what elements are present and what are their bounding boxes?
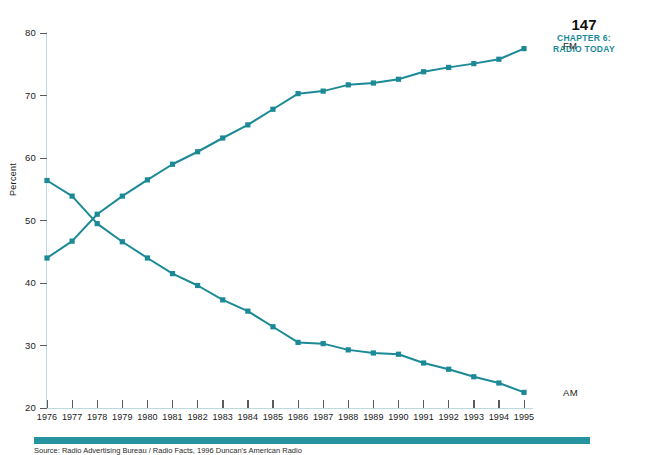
data-point-marker (346, 347, 351, 352)
series-end-label-fm: FM (563, 40, 577, 51)
data-point-marker (195, 149, 200, 154)
data-point-marker (371, 350, 376, 355)
data-point-marker (220, 297, 225, 302)
data-point-marker (421, 360, 426, 365)
data-point-marker (321, 341, 326, 346)
data-point-marker (496, 380, 501, 385)
data-point-marker (521, 390, 526, 395)
data-point-marker (471, 61, 476, 66)
data-point-marker (44, 178, 49, 183)
figure-caption: Source: Radio Advertising Bureau / Radio… (34, 446, 634, 455)
data-point-marker (170, 271, 175, 276)
data-point-marker (371, 80, 376, 85)
data-point-marker (70, 194, 75, 199)
data-point-marker (421, 69, 426, 74)
data-point-marker (396, 77, 401, 82)
series-line-am (47, 181, 524, 393)
data-point-marker (295, 91, 300, 96)
data-point-marker (70, 239, 75, 244)
data-point-marker (295, 340, 300, 345)
series-line-fm (47, 49, 524, 258)
data-point-marker (471, 374, 476, 379)
data-point-marker (245, 309, 250, 314)
data-point-marker (396, 352, 401, 357)
data-point-marker (321, 89, 326, 94)
series-end-label-am: AM (563, 387, 578, 398)
data-point-marker (95, 221, 100, 226)
data-point-marker (170, 162, 175, 167)
data-point-marker (446, 65, 451, 70)
data-point-marker (120, 194, 125, 199)
bottom-rule (34, 437, 590, 444)
data-point-marker (270, 107, 275, 112)
data-point-marker (95, 212, 100, 217)
data-point-marker (270, 324, 275, 329)
data-point-marker (145, 177, 150, 182)
data-point-marker (245, 122, 250, 127)
data-point-marker (521, 46, 526, 51)
data-point-marker (220, 135, 225, 140)
data-point-marker (44, 255, 49, 260)
data-point-marker (145, 255, 150, 260)
data-point-marker (446, 367, 451, 372)
data-point-marker (195, 283, 200, 288)
data-point-marker (346, 82, 351, 87)
line-chart: Percent 20304050607080 19761977197819791… (0, 0, 600, 425)
series-plot (0, 0, 600, 425)
data-point-marker (496, 57, 501, 62)
data-point-marker (120, 239, 125, 244)
